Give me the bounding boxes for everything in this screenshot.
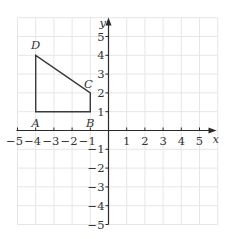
x-axis-label: x xyxy=(213,132,220,146)
x-tick-labels: −5−4−3−2−112345 xyxy=(6,134,203,148)
x-tick-label: −4 xyxy=(24,134,41,148)
y-axis-label: y xyxy=(99,16,107,30)
y-tick-label: −3 xyxy=(88,180,105,194)
vertex-label-a: A xyxy=(31,116,40,130)
vertex-label-c: C xyxy=(84,77,93,91)
coordinate-plane: −5−4−3−2−112345 54321−1−2−3−4−5 ABCD x y xyxy=(0,0,225,239)
y-axis xyxy=(106,18,112,225)
x-tick-label: 2 xyxy=(141,134,148,148)
x-tick-label: 1 xyxy=(123,134,130,148)
x-tick-label: 4 xyxy=(178,134,185,148)
y-tick-label: 3 xyxy=(97,67,104,81)
quadrilateral-abcd xyxy=(36,55,91,111)
y-tick-label: −2 xyxy=(88,161,105,175)
y-tick-label: 1 xyxy=(97,105,104,119)
x-tick-label: 5 xyxy=(196,134,203,148)
x-tick-label: −5 xyxy=(6,134,23,148)
vertex-label-b: B xyxy=(85,116,94,130)
y-tick-label: 4 xyxy=(97,48,104,62)
x-tick-label: −2 xyxy=(61,134,78,148)
y-tick-label: −5 xyxy=(88,218,105,232)
grid xyxy=(18,18,218,225)
vertex-labels: ABCD xyxy=(30,38,94,129)
vertex-label-d: D xyxy=(30,38,40,52)
y-tick-label: 2 xyxy=(97,86,104,100)
y-tick-label: −4 xyxy=(88,199,105,213)
y-axis-arrow-icon xyxy=(106,18,112,26)
y-tick-label: −1 xyxy=(88,142,105,156)
x-tick-label: −3 xyxy=(42,134,59,148)
x-tick-label: 3 xyxy=(159,134,166,148)
y-tick-label: 5 xyxy=(97,30,104,44)
